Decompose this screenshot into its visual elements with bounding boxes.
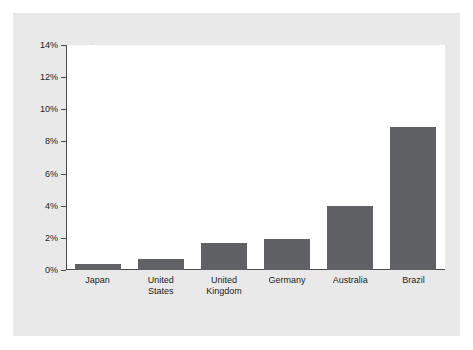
bar[interactable] — [327, 206, 373, 270]
x-axis-tick-label: Germany — [256, 275, 319, 286]
x-axis-tick-label-line: Australia — [319, 275, 382, 286]
y-axis-tick-label: 12% — [24, 72, 58, 82]
x-axis-tick-label: Japan — [66, 275, 129, 286]
y-axis-tick-label: 6% — [24, 169, 58, 179]
bar[interactable] — [264, 239, 310, 270]
x-axis-tick-label-line: Kingdom — [192, 286, 255, 297]
y-axis-tick-label: 4% — [24, 201, 58, 211]
y-axis-tick-label: 2% — [24, 233, 58, 243]
x-axis-tick-labels: JapanUnitedStatesUnitedKingdomGermanyAus… — [66, 275, 445, 315]
bar-slot — [138, 45, 184, 270]
clipped-top-caption — [0, 0, 473, 2]
x-axis-tick-label-line: Japan — [66, 275, 129, 286]
bar-slot — [75, 45, 121, 270]
x-axis-tick-label-line: Brazil — [382, 275, 445, 286]
x-axis-tick-label-line: Germany — [256, 275, 319, 286]
bar[interactable] — [390, 127, 436, 270]
bar[interactable] — [75, 264, 121, 270]
bar-series — [66, 45, 445, 270]
bar[interactable] — [201, 243, 247, 270]
x-axis-tick-label-line: United — [129, 275, 192, 286]
x-axis-tick-label: Brazil — [382, 275, 445, 286]
x-axis-tick-label: UnitedKingdom — [192, 275, 255, 296]
y-axis-tick-label: 0% — [24, 265, 58, 275]
y-axis-tick-label: 14% — [24, 40, 58, 50]
y-axis-tick-label: 10% — [24, 104, 58, 114]
chart-card: One-year Interest Rates 0%2%4%6%8%10%12%… — [13, 13, 460, 336]
x-axis-tick-label-line: United — [192, 275, 255, 286]
bar-slot — [264, 45, 310, 270]
x-axis-tick-label: UnitedStates — [129, 275, 192, 296]
bar-slot — [327, 45, 373, 270]
x-axis-tick-label: Australia — [319, 275, 382, 286]
bar-slot — [390, 45, 436, 270]
bar-slot — [201, 45, 247, 270]
x-axis-tick-label-line: States — [129, 286, 192, 297]
bar[interactable] — [138, 259, 184, 270]
y-axis-tick-label: 8% — [24, 136, 58, 146]
